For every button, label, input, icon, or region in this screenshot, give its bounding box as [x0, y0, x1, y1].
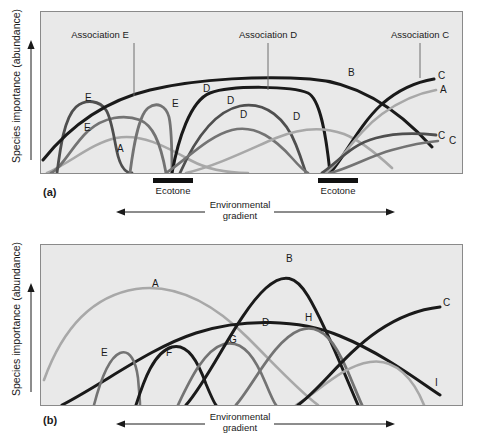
curve-label-b-H: H: [305, 312, 312, 323]
panel-b-y-axis-arrow: [27, 283, 34, 392]
curve-label-a-D4: D: [293, 111, 300, 122]
curve-label-b-D: D: [262, 317, 269, 328]
curve-label-a-D1: D: [203, 83, 210, 94]
ecotone-label-left: Ecotone: [156, 185, 191, 196]
association-d-label: Association D: [239, 29, 297, 40]
curve-label-a-C2: C: [438, 130, 445, 141]
curve-label-a-D3: D: [240, 109, 247, 120]
curve-label-a-C3: C: [449, 135, 456, 146]
curve-label-a-A2: A: [440, 84, 447, 95]
curve-label-a-B: B: [348, 67, 355, 78]
panel-b-gradient-label-2: gradient: [223, 422, 258, 433]
panel-b-gradient-axis: Environmental gradient: [116, 411, 395, 433]
association-e-label: Association E: [71, 29, 129, 40]
ecotone-bar-right: [318, 178, 358, 183]
panel-b-y-axis-label: Species importance (abundance): [10, 242, 22, 396]
curve-label-a-D2: D: [227, 95, 234, 106]
curve-label-b-F: F: [166, 347, 172, 358]
curve-label-a-A1: A: [117, 143, 124, 154]
ecotone-label-right: Ecotone: [321, 185, 356, 196]
panel-b-caption: (b): [43, 414, 57, 426]
ecology-gradient-figure: Species importance (abundance): [0, 0, 480, 447]
curve-label-b-C: C: [443, 297, 450, 308]
curve-label-a-E3: E: [172, 98, 179, 109]
curve-label-b-A: A: [152, 278, 159, 289]
panel-a-gradient-label-2: gradient: [223, 210, 258, 221]
curve-label-a-C1: C: [438, 70, 445, 81]
association-c-label: Association C: [391, 29, 449, 40]
panel-a-gradient-label-1: Environmental: [210, 199, 271, 210]
curve-label-a-E2: E: [84, 122, 91, 133]
panel-a-caption: (a): [43, 186, 57, 198]
curve-label-b-E: E: [101, 347, 108, 358]
curve-label-b-G: G: [229, 334, 237, 345]
panel-b-gradient-label-1: Environmental: [210, 411, 271, 422]
panel-a-y-axis-arrow: [27, 40, 34, 160]
curve-label-a-E1: E: [85, 92, 92, 103]
panel-a-gradient-axis: Environmental gradient: [116, 199, 395, 221]
panel-b: Species importance (abundance) A B: [10, 242, 463, 433]
panel-a-y-axis-label: Species importance (abundance): [10, 9, 22, 163]
panel-a: Species importance (abundance): [10, 9, 463, 221]
curve-label-b-B: B: [286, 253, 293, 264]
curve-label-b-I: I: [435, 377, 438, 388]
ecotone-bar-left: [153, 178, 193, 183]
